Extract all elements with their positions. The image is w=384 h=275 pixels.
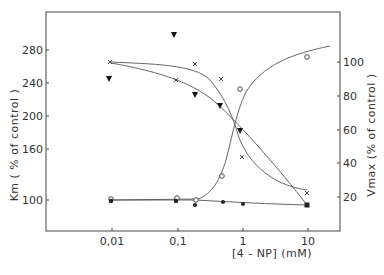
x-tick-0.01: 0,01: [100, 235, 125, 248]
plot-frame: [46, 12, 340, 231]
data-point: [171, 32, 177, 38]
data-point: [109, 199, 113, 203]
vmax-cross-curve: [111, 62, 307, 190]
vmax-filled-curve: [111, 200, 307, 205]
data-point: [305, 203, 310, 208]
fit-curves: [111, 46, 330, 205]
y2-axis-title: Vmax (% of control ): [365, 73, 378, 196]
series-crosses: [108, 60, 309, 195]
data-point: [192, 92, 198, 98]
data-point: [220, 174, 225, 179]
km-triangle-curve: [111, 63, 307, 205]
y2-tick-40: 40: [343, 157, 357, 170]
chart: 280 240 200 160 100 100 80 60 40 20 0,01…: [0, 0, 384, 275]
x-tick-0.1: 0,1: [169, 235, 187, 248]
y-tick-200: 200: [22, 110, 43, 123]
data-point: [194, 198, 199, 203]
y-axis-title: Km ( % of control ): [8, 89, 21, 202]
y-tick-280: 280: [22, 44, 43, 57]
y2-tick-100: 100: [343, 56, 364, 69]
data-point: [174, 199, 178, 203]
right-axis-labels: 100 80 60 40 20: [343, 56, 364, 204]
series-filled-triangles: [106, 32, 243, 134]
data-point: [238, 87, 243, 92]
y-tick-100: 100: [22, 194, 43, 207]
data-point: [240, 155, 244, 159]
y-tick-160: 160: [22, 143, 43, 156]
data-point: [193, 203, 197, 207]
left-axis-labels: 280 240 200 160 100: [22, 44, 43, 207]
x-axis-title: [4 - NP] (mM): [232, 247, 312, 260]
data-point: [221, 200, 225, 204]
data-point: [241, 202, 245, 206]
data-point: [305, 191, 309, 195]
y2-tick-20: 20: [343, 191, 357, 204]
data-point: [106, 76, 112, 82]
y2-tick-80: 80: [343, 90, 357, 103]
data-point: [193, 62, 197, 66]
series-open-circles: [109, 55, 310, 203]
data-point: [305, 55, 310, 60]
data-point: [219, 77, 223, 81]
y2-tick-60: 60: [343, 124, 357, 137]
y-tick-240: 240: [22, 77, 43, 90]
